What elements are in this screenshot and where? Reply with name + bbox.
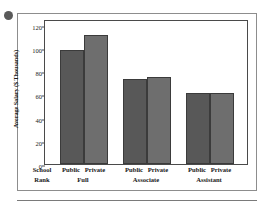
- y-tick-mark: [42, 73, 45, 74]
- bar-assistant-public: [186, 93, 210, 164]
- bar-full-public: [60, 50, 84, 164]
- y-tick-mark: [42, 142, 45, 143]
- y-tick-mark: [42, 26, 45, 27]
- bullet-dot-icon: [4, 11, 13, 20]
- x-group-label-assistant: Assistant: [175, 176, 243, 183]
- bar-associate-private: [147, 77, 171, 164]
- bottom-divider: [17, 200, 257, 201]
- x-sublabel-private: Private: [205, 166, 237, 173]
- x-sublabel-private: Private: [79, 166, 111, 173]
- bar-full-private: [84, 35, 108, 164]
- bar-assistant-private: [210, 93, 234, 164]
- y-axis-title: Average Salary ($ Thousands): [12, 34, 22, 144]
- y-tick-mark: [42, 119, 45, 120]
- x-group-label-associate: Associate: [112, 176, 180, 183]
- figure-frame: Average Salary ($ Thousands) 02040608010…: [17, 13, 257, 191]
- bar-associate-public: [123, 79, 147, 164]
- y-tick-mark: [42, 96, 45, 97]
- plot-area: 020406080100120: [44, 20, 248, 165]
- x-axis-labels: School Rank PublicPrivateFullPublicPriva…: [18, 166, 258, 190]
- x-group-label-full: Full: [49, 176, 117, 183]
- y-tick-mark: [42, 50, 45, 51]
- x-sublabel-private: Private: [142, 166, 174, 173]
